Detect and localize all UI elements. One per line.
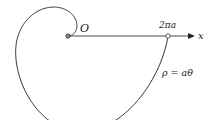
spiral-diagram: O 2πa x ρ = aθ bbox=[0, 0, 211, 120]
spiral-curve bbox=[16, 7, 168, 120]
origin-point bbox=[66, 34, 70, 38]
axis-label: x bbox=[198, 30, 204, 41]
equation-label: ρ = aθ bbox=[161, 67, 193, 78]
axis-arrow-icon bbox=[188, 33, 195, 39]
origin-label: O bbox=[80, 22, 89, 35]
point-2pi-a bbox=[166, 34, 170, 38]
point-label: 2πa bbox=[158, 20, 176, 30]
